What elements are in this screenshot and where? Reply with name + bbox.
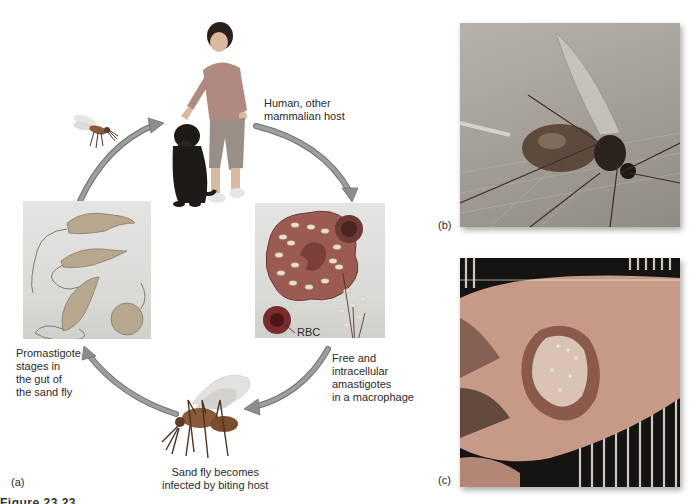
panel-label-a: (a) [11, 476, 24, 489]
sandfly-photo-content [460, 23, 680, 227]
label-amastigotes: Free and intracellular amastigotes in a … [332, 352, 414, 404]
label-sandfly-line1: Sand fly becomes [162, 466, 268, 479]
label-promastigote: Promastigote stages in the gut of the sa… [16, 347, 81, 399]
label-sandfly: Sand fly becomes infected by biting host [162, 466, 268, 492]
label-human-host-line1: Human, other [264, 97, 345, 110]
label-human-host: Human, other mammalian host [264, 97, 345, 123]
cycle-arrow-to-macrophage [252, 122, 362, 204]
skin-lesion-photo-content [460, 258, 680, 487]
panel-label-c: (c) [438, 474, 451, 487]
label-promastigote-line4: the sand fly [16, 386, 81, 399]
figure-caption-text: Figure 23.23 [0, 496, 697, 504]
label-amastigotes-line4: in a macrophage [332, 391, 414, 404]
label-promastigote-line3: the gut of [16, 373, 81, 386]
panel-label-b: (b) [438, 219, 451, 232]
sandfly-photo [460, 23, 680, 227]
cycle-arrow-to-promastigote [80, 346, 180, 418]
label-amastigotes-line3: amastigotes [332, 378, 414, 391]
human-and-dog-illustration [165, 18, 260, 208]
label-rbc: RBC [297, 326, 320, 339]
label-promastigote-line1: Promastigote [16, 347, 81, 360]
label-amastigotes-line2: intracellular [332, 365, 414, 378]
label-amastigotes-line1: Free and [332, 352, 414, 365]
skin-lesion-photo [460, 258, 680, 487]
promastigote-illustration [23, 201, 151, 339]
label-promastigote-line2: stages in [16, 360, 81, 373]
cycle-arrow-to-host [76, 115, 166, 205]
macrophage-illustration [255, 203, 385, 338]
promastigote-panel [23, 201, 151, 339]
macrophage-panel: RBC [255, 203, 385, 338]
figure-caption-clipped: Figure 23.23 [0, 496, 697, 504]
label-sandfly-line2: infected by biting host [162, 479, 268, 492]
life-cycle-diagram: Human, other mammalian host [0, 0, 450, 490]
